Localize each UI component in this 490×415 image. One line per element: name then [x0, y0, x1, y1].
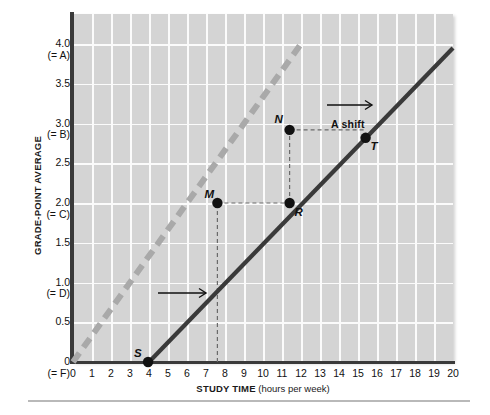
y-tick-label: 3.5	[22, 78, 70, 90]
x-tick-label: 15	[348, 367, 368, 379]
figure-bottom-rule	[28, 400, 470, 402]
y-tick-grade-letter: (= D)	[22, 288, 70, 300]
vertical-gridline	[263, 14, 265, 362]
vertical-gridline	[187, 14, 189, 362]
x-tick-label: 12	[291, 367, 311, 379]
chart-figure: GRADE-POINT AVERAGE 4.0(= A)3.53.0(= B)2…	[0, 0, 490, 415]
x-tick-label: 0	[63, 367, 83, 379]
y-tick-label: 1.5	[22, 237, 70, 249]
y-tick-label: 2.5	[22, 157, 70, 169]
x-tick-label: 4	[139, 367, 159, 379]
y-tick-label: 3.0(= B)	[22, 118, 70, 141]
horizontal-gridline	[73, 163, 453, 165]
plot-gridlines	[73, 14, 453, 362]
horizontal-gridline	[73, 84, 453, 86]
x-tick-label: 20	[443, 367, 463, 379]
y-tick-value: 3.5	[55, 77, 70, 89]
vertical-gridline	[168, 14, 170, 362]
point-label-n: N	[275, 113, 283, 125]
x-tick-label: 10	[253, 367, 273, 379]
x-tick-label: 9	[234, 367, 254, 379]
y-tick-value: 0.5	[55, 315, 70, 327]
x-tick-label: 1	[82, 367, 102, 379]
y-tick-value: 2.5	[55, 156, 70, 168]
y-tick-grade-letter: (= C)	[22, 209, 70, 221]
point-label-s: S	[134, 347, 142, 359]
point-label-r: R	[295, 206, 303, 218]
horizontal-gridline	[73, 243, 453, 245]
vertical-gridline	[301, 14, 303, 362]
x-tick-label: 13	[310, 367, 330, 379]
x-tick-label: 7	[196, 367, 216, 379]
vertical-gridline	[244, 14, 246, 362]
y-axis-tick-labels: 4.0(= A)3.53.0(= B)2.52.0(= C)1.51.0(= D…	[14, 0, 70, 415]
horizontal-gridline	[73, 283, 453, 285]
y-tick-label: 4.0(= A)	[22, 38, 70, 61]
point-label-t: T	[371, 140, 378, 152]
y-tick-value: 2.0	[55, 196, 70, 208]
y-tick-value: 1.5	[55, 236, 70, 248]
vertical-gridline	[225, 14, 227, 362]
x-tick-label: 11	[272, 367, 292, 379]
vertical-gridline	[92, 14, 94, 362]
x-tick-label: 18	[405, 367, 425, 379]
y-axis-line	[70, 12, 74, 364]
x-tick-label: 3	[120, 367, 140, 379]
y-tick-value: 1.0	[55, 276, 70, 288]
vertical-gridline	[130, 14, 132, 362]
x-tick-label: 16	[367, 367, 387, 379]
vertical-gridline	[282, 14, 284, 362]
x-axis-title: STUDY TIME (hours per week)	[73, 383, 453, 394]
a-shift-label: A shift	[331, 118, 365, 130]
x-tick-label: 17	[386, 367, 406, 379]
x-tick-label: 8	[215, 367, 235, 379]
y-tick-value: 3.0	[55, 117, 70, 129]
vertical-gridline	[339, 14, 341, 362]
vertical-gridline	[358, 14, 360, 362]
y-tick-label: 0.5	[22, 316, 70, 328]
vertical-gridline	[434, 14, 436, 362]
x-axis-title-unit: (hours per week)	[258, 383, 329, 394]
horizontal-gridline	[73, 44, 453, 46]
horizontal-gridline	[73, 322, 453, 324]
vertical-gridline	[149, 14, 151, 362]
vertical-gridline	[377, 14, 379, 362]
x-axis-line	[70, 361, 455, 365]
horizontal-gridline	[73, 124, 453, 126]
y-tick-grade-letter: (= A)	[22, 50, 70, 62]
x-tick-label: 5	[158, 367, 178, 379]
vertical-gridline	[320, 14, 322, 362]
x-tick-label: 6	[177, 367, 197, 379]
y-tick-label: 1.0(= D)	[22, 277, 70, 300]
x-tick-label: 2	[101, 367, 121, 379]
x-tick-label: 14	[329, 367, 349, 379]
y-tick-value: 4.0	[55, 37, 70, 49]
y-tick-grade-letter: (= B)	[22, 129, 70, 141]
horizontal-gridline	[73, 203, 453, 205]
plot-area	[73, 14, 453, 362]
y-tick-label: 2.0(= C)	[22, 197, 70, 220]
point-label-m: M	[204, 188, 214, 200]
vertical-gridline	[415, 14, 417, 362]
vertical-gridline	[396, 14, 398, 362]
x-tick-label: 19	[424, 367, 444, 379]
x-axis-title-main: STUDY TIME	[196, 383, 255, 394]
vertical-gridline	[111, 14, 113, 362]
